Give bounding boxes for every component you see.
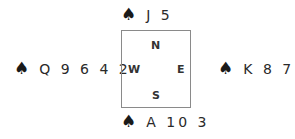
north-cards: J 5 bbox=[146, 7, 173, 23]
north-hand: ♠ J 5 bbox=[121, 6, 173, 23]
south-hand: ♠ A 10 3 bbox=[121, 113, 209, 130]
east-cards: K 8 7 bbox=[243, 61, 294, 77]
east-hand: ♠ K 8 7 bbox=[218, 60, 294, 77]
west-label: W bbox=[128, 63, 140, 76]
east-label: E bbox=[177, 63, 185, 76]
spade-icon: ♠ bbox=[121, 113, 136, 130]
south-cards: A 10 3 bbox=[146, 114, 209, 130]
south-label: S bbox=[152, 89, 160, 102]
west-hand: ♠ Q 9 6 4 2 bbox=[14, 60, 131, 77]
west-cards: Q 9 6 4 2 bbox=[39, 61, 130, 77]
spade-icon: ♠ bbox=[218, 60, 233, 77]
north-label: N bbox=[151, 39, 160, 52]
spade-icon: ♠ bbox=[121, 6, 136, 23]
spade-icon: ♠ bbox=[14, 60, 29, 77]
compass-table-box: N W E S bbox=[121, 30, 191, 108]
